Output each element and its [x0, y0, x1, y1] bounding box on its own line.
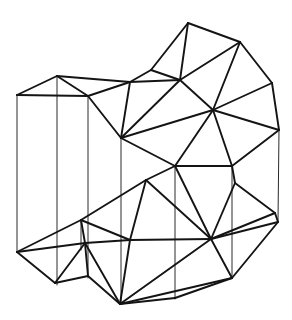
figure-background: [0, 0, 292, 320]
mesh-edge: [17, 95, 88, 96]
mesh-edge: [130, 239, 211, 240]
mesh-canvas: [0, 0, 292, 320]
wireframe-figure: [0, 0, 292, 320]
